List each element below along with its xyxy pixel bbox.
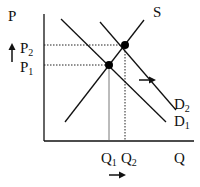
p1-base: P (20, 59, 28, 75)
p1-label: P1 (20, 59, 33, 77)
x-axis-label: Q (174, 150, 185, 166)
price-up-arrow-icon (9, 43, 16, 62)
demand-1-sub: 1 (185, 120, 190, 131)
demand-2-label: D2 (174, 96, 190, 114)
q2-sub: 2 (132, 157, 137, 168)
demand-2-sub: 2 (185, 103, 190, 114)
p2-sub: 2 (28, 47, 33, 58)
quantity-right-arrow-icon (109, 172, 126, 179)
supply-demand-diagram: P Q S D2 D1 P2 P1 Q1 Q2 (0, 0, 200, 187)
equilibrium-point-2 (121, 41, 129, 49)
demand-1-label: D1 (174, 113, 190, 131)
demand-2-base: D (174, 96, 185, 112)
q1-label: Q1 (101, 150, 117, 168)
q2-label: Q2 (121, 150, 137, 168)
p1-sub: 1 (28, 66, 33, 77)
q1-base: Q (101, 150, 112, 166)
p2-base: P (20, 40, 28, 56)
q2-base: Q (121, 150, 132, 166)
demand-1-base: D (174, 113, 185, 129)
p2-label: P2 (20, 40, 33, 58)
equilibrium-point-1 (105, 61, 113, 69)
q1-sub: 1 (112, 157, 117, 168)
y-axis-label: P (8, 8, 16, 24)
supply-label: S (153, 4, 161, 20)
